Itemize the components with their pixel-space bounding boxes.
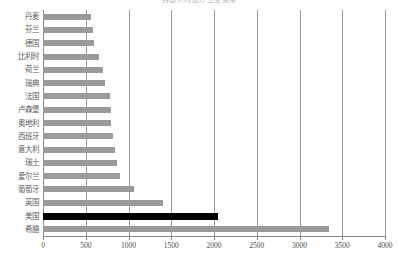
bar-英国 <box>43 200 163 206</box>
tick-mark <box>43 236 44 240</box>
x-tick-label: 3500 <box>335 241 350 251</box>
bar-西班牙 <box>43 133 113 139</box>
tick-mark <box>300 236 301 240</box>
category-label-法国: 法国 <box>0 92 39 101</box>
x-tick-label: 500 <box>80 241 91 251</box>
plot-area <box>43 10 385 236</box>
bar-row <box>43 130 385 143</box>
tick-mark <box>385 236 386 240</box>
x-tick-label: 1500 <box>164 241 179 251</box>
tick-mark <box>129 236 130 240</box>
bar-row <box>43 23 385 36</box>
x-tick-label: 2000 <box>207 241 222 251</box>
bar-row <box>43 103 385 116</box>
bar-row <box>43 50 385 63</box>
bar-奥地利 <box>43 120 111 126</box>
category-label-瑞典: 瑞典 <box>0 79 39 88</box>
chart-title: 各国人均医疗卫生费用 <box>0 0 398 4</box>
bar-荷兰 <box>43 67 103 73</box>
tick-mark <box>214 236 215 240</box>
bar-row <box>43 223 385 236</box>
x-tick-label: 3000 <box>292 241 307 251</box>
bar-德国 <box>43 40 94 46</box>
gridline <box>385 10 386 236</box>
bar-爱尔兰 <box>43 173 120 179</box>
bar-丹麦 <box>43 14 91 20</box>
bar-row <box>43 170 385 183</box>
bar-卢森堡 <box>43 107 111 113</box>
bar-row <box>43 143 385 156</box>
tick-mark <box>342 236 343 240</box>
bar-row <box>43 63 385 76</box>
category-label-西班牙: 西班牙 <box>0 132 39 141</box>
bar-chart: 各国人均医疗卫生费用 丹麦芬兰德国比利时荷兰瑞典法国卢森堡奥地利西班牙意大利瑞士… <box>0 0 398 260</box>
bar-row <box>43 10 385 23</box>
category-label-丹麦: 丹麦 <box>0 12 39 21</box>
bar-row <box>43 183 385 196</box>
bar-row <box>43 90 385 103</box>
x-tick-label: 1000 <box>121 241 136 251</box>
category-label-德国: 德国 <box>0 39 39 48</box>
x-tick-label: 2500 <box>249 241 264 251</box>
bar-row <box>43 37 385 50</box>
bar-瑞士 <box>43 160 117 166</box>
bar-row <box>43 209 385 222</box>
bar-row <box>43 156 385 169</box>
category-label-希腊: 希腊 <box>0 225 39 234</box>
category-label-荷兰: 荷兰 <box>0 65 39 74</box>
bar-row <box>43 76 385 89</box>
category-label-卢森堡: 卢森堡 <box>0 105 39 114</box>
bar-意大利 <box>43 147 115 153</box>
bar-希腊 <box>43 226 329 232</box>
bar-美国 <box>43 213 218 220</box>
bar-瑞典 <box>43 80 105 86</box>
tick-mark <box>171 236 172 240</box>
bar-row <box>43 196 385 209</box>
bar-葡萄牙 <box>43 186 134 192</box>
category-label-瑞士: 瑞士 <box>0 158 39 167</box>
bar-芬兰 <box>43 27 93 33</box>
bar-法国 <box>43 93 110 99</box>
x-tick-label: 0 <box>41 241 45 251</box>
category-label-爱尔兰: 爱尔兰 <box>0 172 39 181</box>
category-label-奥地利: 奥地利 <box>0 119 39 128</box>
category-label-意大利: 意大利 <box>0 145 39 154</box>
bar-row <box>43 116 385 129</box>
x-tick-label: 4000 <box>378 241 393 251</box>
category-label-美国: 美国 <box>0 212 39 221</box>
tick-mark <box>86 236 87 240</box>
category-label-比利时: 比利时 <box>0 52 39 61</box>
tick-mark <box>257 236 258 240</box>
category-label-英国: 英国 <box>0 198 39 207</box>
bar-比利时 <box>43 54 99 60</box>
category-label-芬兰: 芬兰 <box>0 25 39 34</box>
category-label-葡萄牙: 葡萄牙 <box>0 185 39 194</box>
